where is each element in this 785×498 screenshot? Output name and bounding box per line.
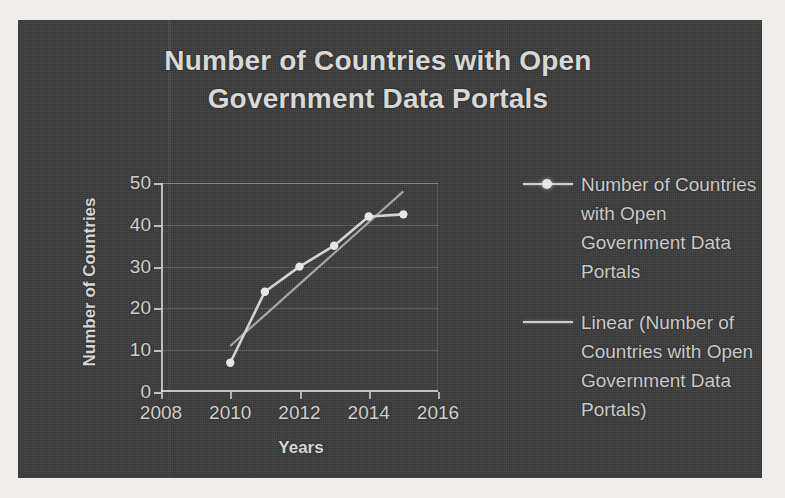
series-markers [226, 210, 408, 367]
data-point [295, 262, 303, 270]
x-tick-label-2010: 2010 [209, 402, 251, 424]
y-tick-label-20: 20 [130, 297, 151, 319]
x-tick-2014 [369, 392, 371, 399]
x-tick-2008 [161, 392, 163, 399]
y-tick-50 [154, 183, 161, 185]
x-axis-title: Years [161, 438, 441, 458]
y-tick-0 [154, 392, 161, 394]
data-point [365, 212, 373, 220]
series-plot [161, 183, 438, 392]
x-tick-label-2014: 2014 [348, 402, 390, 424]
x-tick-label-2008: 2008 [140, 402, 182, 424]
data-point [330, 242, 338, 250]
plot-wrapper: 50 40 30 20 10 0 2008 2010 2012 2014 201… [143, 165, 443, 395]
legend-line-icon [523, 317, 573, 327]
y-tick-label-50: 50 [130, 172, 151, 194]
y-tick-label-10: 10 [130, 339, 151, 361]
series-line [230, 214, 403, 362]
legend-line-marker-icon [523, 179, 573, 189]
chart-title: Number of Countries with Open Government… [78, 42, 678, 118]
y-tick-20 [154, 308, 161, 310]
legend-entry-trendline[interactable]: Linear (Number of Countries with Open Go… [523, 308, 762, 424]
chart-image: Number of Countries with Open Government… [18, 20, 762, 478]
x-tick-label-2016: 2016 [417, 402, 459, 424]
y-tick-label-40: 40 [130, 214, 151, 236]
y-tick-label-0: 0 [140, 381, 151, 403]
legend-entry-series[interactable]: Number of Countries with Open Government… [523, 170, 762, 286]
plot-area: 50 40 30 20 10 0 2008 2010 2012 2014 201… [161, 183, 438, 392]
data-point [399, 210, 407, 218]
y-axis-title: Number of Countries [80, 172, 100, 392]
data-point [261, 287, 269, 295]
x-tick-2012 [300, 392, 302, 399]
data-point [226, 359, 234, 367]
y-tick-label-30: 30 [130, 256, 151, 278]
legend-label-trendline: Linear (Number of Countries with Open Go… [581, 312, 753, 420]
y-tick-30 [154, 267, 161, 269]
trendline [230, 191, 403, 346]
x-tick-label-2012: 2012 [278, 402, 320, 424]
y-tick-10 [154, 350, 161, 352]
legend-label-series: Number of Countries with Open Government… [581, 174, 756, 282]
x-tick-2016 [438, 392, 440, 399]
chart-legend: Number of Countries with Open Government… [523, 170, 762, 446]
chart-page: Number of Countries with Open Government… [0, 0, 785, 498]
x-tick-2010 [230, 392, 232, 399]
y-tick-40 [154, 225, 161, 227]
